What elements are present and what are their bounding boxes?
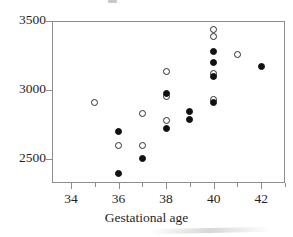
data-point-open-circles	[163, 117, 170, 124]
x-minor-tick-mark	[142, 183, 143, 187]
x-tick-mark	[71, 183, 72, 189]
x-tick-label: 40	[199, 191, 229, 207]
y-tick-label: 3500	[0, 12, 46, 28]
data-point-filled-circles	[210, 73, 217, 80]
x-tick-label: 34	[56, 191, 86, 207]
x-tick-label: 42	[246, 191, 276, 207]
data-point-filled-circles	[210, 59, 217, 66]
data-point-open-circles	[234, 51, 241, 58]
data-point-filled-circles	[186, 108, 193, 115]
data-point-open-circles	[210, 33, 217, 40]
x-tick-mark	[166, 183, 167, 189]
x-minor-tick-mark	[237, 183, 238, 187]
data-point-open-circles	[163, 68, 170, 75]
data-point-open-circles	[139, 142, 146, 149]
plot-data-area	[52, 21, 285, 183]
scan-smudge	[150, 227, 270, 235]
data-point-filled-circles	[186, 116, 193, 123]
y-tick-label: 3000	[0, 81, 46, 97]
data-point-filled-circles	[163, 125, 170, 132]
data-point-open-circles	[115, 142, 122, 149]
data-point-filled-circles	[163, 90, 170, 97]
x-minor-tick-mark	[190, 183, 191, 187]
x-tick-mark	[214, 183, 215, 189]
data-point-filled-circles	[115, 128, 122, 135]
x-minor-tick-mark	[95, 183, 96, 187]
data-point-filled-circles	[115, 170, 122, 177]
data-point-open-circles	[139, 110, 146, 117]
data-point-filled-circles	[210, 99, 217, 106]
x-minor-tick-mark	[285, 183, 286, 187]
y-tick-label: 2500	[0, 150, 46, 166]
data-point-open-circles	[91, 99, 98, 106]
x-tick-label: 36	[104, 191, 134, 207]
scatter-plot-figure: 250030003500 3436384042 Gestational age	[0, 0, 293, 237]
y-axis-tick-labels: 250030003500	[0, 0, 46, 237]
x-tick-mark	[261, 183, 262, 189]
clipped-artifact-top	[108, 0, 117, 3]
data-point-filled-circles	[258, 63, 265, 70]
x-axis-title: Gestational age	[0, 210, 293, 226]
y-tick-mark	[46, 159, 52, 160]
x-tick-mark	[119, 183, 120, 189]
y-tick-mark	[46, 90, 52, 91]
x-tick-label: 38	[151, 191, 181, 207]
data-point-filled-circles	[139, 155, 146, 162]
data-point-filled-circles	[210, 48, 217, 55]
y-tick-mark	[46, 21, 52, 22]
data-point-open-circles	[210, 26, 217, 33]
